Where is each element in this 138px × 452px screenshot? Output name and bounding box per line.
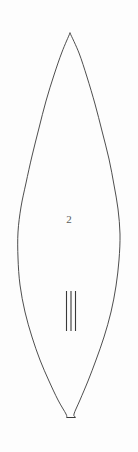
figure-background — [0, 0, 138, 452]
lens-figure-canvas — [0, 0, 138, 452]
